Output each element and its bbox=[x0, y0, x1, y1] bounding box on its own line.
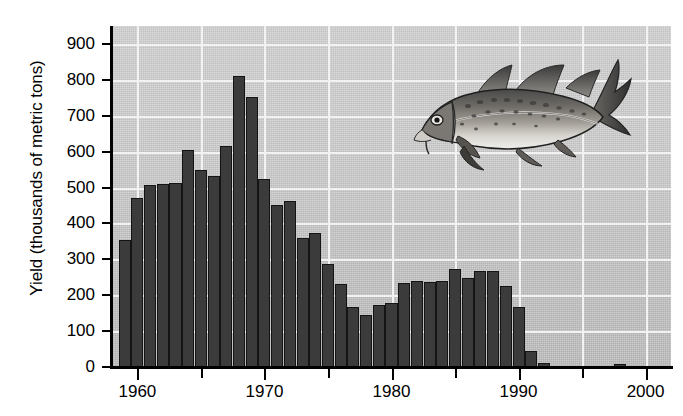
bar bbox=[258, 179, 270, 367]
x-tick-label: 1970 bbox=[229, 382, 299, 402]
bar bbox=[398, 283, 410, 367]
bar bbox=[487, 271, 499, 367]
bar bbox=[462, 278, 474, 367]
x-tick-minor bbox=[455, 368, 457, 378]
x-tick-major bbox=[137, 368, 139, 380]
cod-yield-figure: Yield (thousands of metric tons) bbox=[0, 0, 683, 416]
x-tick-minor bbox=[201, 368, 203, 378]
bar bbox=[182, 150, 194, 367]
y-tick bbox=[102, 151, 111, 153]
x-tick-label: 2000 bbox=[611, 382, 681, 402]
bar bbox=[284, 201, 296, 367]
y-tick bbox=[102, 79, 111, 81]
bar bbox=[322, 264, 334, 367]
bar bbox=[144, 185, 156, 367]
x-tick-major bbox=[646, 368, 648, 380]
bar bbox=[246, 97, 258, 367]
y-axis-line bbox=[110, 26, 113, 369]
bar bbox=[119, 240, 131, 367]
bar bbox=[169, 183, 181, 367]
x-tick-major bbox=[519, 368, 521, 380]
y-axis-title: Yield (thousands of metric tons) bbox=[27, 0, 47, 358]
y-tick-label: 400 bbox=[51, 214, 95, 231]
bar bbox=[271, 205, 283, 367]
bar bbox=[411, 281, 423, 367]
bar bbox=[131, 198, 143, 367]
gridline-vertical bbox=[582, 26, 584, 367]
bar bbox=[157, 184, 169, 367]
bar bbox=[424, 282, 436, 367]
plot-area bbox=[112, 26, 671, 367]
y-tick-label: 600 bbox=[51, 143, 95, 160]
bar bbox=[385, 303, 397, 367]
y-tick-label: 500 bbox=[51, 179, 95, 196]
bar bbox=[373, 305, 385, 367]
x-tick-major bbox=[392, 368, 394, 380]
y-tick bbox=[102, 222, 111, 224]
bar bbox=[297, 238, 309, 367]
y-tick-label: 100 bbox=[51, 322, 95, 339]
y-tick-label: 900 bbox=[51, 35, 95, 52]
bar bbox=[195, 170, 207, 367]
x-tick-label: 1960 bbox=[102, 382, 172, 402]
y-tick bbox=[102, 294, 111, 296]
bar bbox=[513, 307, 525, 367]
x-tick-label: 1990 bbox=[484, 382, 554, 402]
bar bbox=[500, 286, 512, 367]
bar bbox=[208, 176, 220, 367]
x-tick-minor bbox=[328, 368, 330, 378]
y-tick-label: 0 bbox=[51, 358, 95, 375]
y-tick-label: 800 bbox=[51, 71, 95, 88]
y-tick bbox=[102, 330, 111, 332]
y-tick bbox=[102, 43, 111, 45]
x-tick-minor bbox=[582, 368, 584, 378]
y-tick-label: 300 bbox=[51, 250, 95, 267]
bar bbox=[436, 281, 448, 367]
bar bbox=[347, 307, 359, 367]
y-tick bbox=[102, 187, 111, 189]
y-tick bbox=[102, 366, 111, 368]
bar bbox=[474, 271, 486, 367]
bar bbox=[220, 146, 232, 367]
y-tick bbox=[102, 258, 111, 260]
bar bbox=[449, 269, 461, 367]
y-tick-label: 200 bbox=[51, 286, 95, 303]
bar bbox=[233, 76, 245, 367]
bar bbox=[335, 284, 347, 367]
bar bbox=[360, 315, 372, 367]
bar bbox=[309, 233, 321, 367]
x-tick-label: 1980 bbox=[357, 382, 427, 402]
y-tick bbox=[102, 115, 111, 117]
gridline-vertical bbox=[646, 26, 648, 367]
y-tick-label: 700 bbox=[51, 107, 95, 124]
x-tick-major bbox=[264, 368, 266, 380]
bar bbox=[525, 351, 537, 367]
